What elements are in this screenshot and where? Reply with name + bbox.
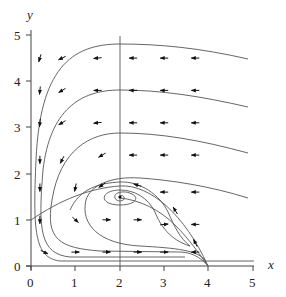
y-tick-label-1: 1: [14, 214, 21, 227]
x-tick-label-3: 3: [160, 276, 167, 289]
y-ticks: [26, 35, 31, 266]
x-tick-label-5: 5: [249, 276, 256, 289]
equilibrium-point: [118, 195, 121, 198]
x-tick-label-2: 2: [116, 276, 123, 289]
x-tick-label-0: 0: [27, 276, 34, 289]
direction-arrow-icon: [59, 56, 66, 60]
y-tick-label-3: 3: [14, 121, 21, 134]
direction-arrow-icon: [59, 121, 66, 125]
x-tick-label-1: 1: [71, 276, 78, 289]
y-axis-label: y: [27, 8, 33, 21]
y-tick-label-5: 5: [14, 29, 21, 42]
phase-portrait: [0, 0, 286, 297]
direction-arrow-icon: [40, 87, 41, 95]
x-ticks: [31, 266, 253, 271]
direction-arrow-icon: [60, 156, 64, 163]
direction-arrow-icon: [40, 119, 41, 127]
axes: [26, 30, 254, 271]
y-tick-label-2: 2: [14, 168, 21, 181]
x-tick-label-4: 4: [204, 276, 211, 289]
direction-arrow-icon: [75, 184, 77, 192]
trajectory: [35, 44, 254, 261]
y-tick-label-0: 0: [14, 260, 21, 273]
direction-arrow-icon: [94, 58, 102, 59]
trajectories: [35, 44, 254, 266]
direction-arrow-icon: [59, 88, 66, 92]
direction-arrow-icon: [39, 54, 41, 62]
x-axis-label: x: [268, 258, 274, 271]
direction-arrow-icon: [99, 153, 106, 157]
direction-arrow-icon: [94, 122, 102, 123]
trajectory: [50, 133, 248, 266]
direction-arrow-icon: [72, 217, 78, 222]
y-tick-label-4: 4: [14, 75, 21, 88]
trajectory: [41, 90, 248, 257]
direction-field: [39, 54, 200, 254]
